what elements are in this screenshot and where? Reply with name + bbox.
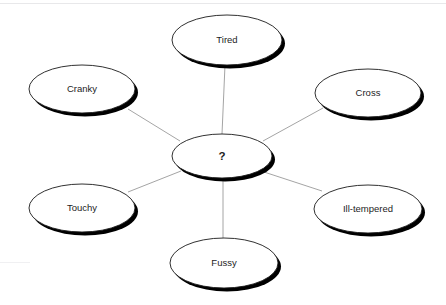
ill-tempered-label: Ill-tempered — [343, 203, 393, 214]
connector-center-cross — [263, 108, 323, 141]
node-touchy[interactable]: Touchy — [29, 184, 138, 236]
cross-label: Cross — [356, 87, 381, 98]
fussy-label: Fussy — [211, 257, 237, 268]
node-center-unknown[interactable]: ? — [172, 134, 275, 182]
word-web-diagram: Tired Cranky Cross Touchy Ill-tempered F… — [0, 0, 446, 305]
connector-center-cranky — [128, 109, 180, 141]
node-cross[interactable]: Cross — [315, 69, 424, 121]
diagram-canvas: Tired Cranky Cross Touchy Ill-tempered F… — [0, 0, 446, 305]
node-tired[interactable]: Tired — [172, 15, 285, 69]
touchy-label: Touchy — [67, 202, 97, 213]
node-fussy[interactable]: Fussy — [170, 238, 281, 292]
connector-center-tired — [222, 65, 225, 134]
connector-center-touchy — [128, 171, 181, 192]
tired-label: Tired — [216, 34, 237, 45]
connector-center-ill-tempered — [264, 172, 322, 191]
node-ill-tempered[interactable]: Ill-tempered — [314, 185, 425, 237]
center-label: ? — [218, 150, 225, 162]
cranky-label: Cranky — [67, 83, 97, 94]
node-cranky[interactable]: Cranky — [29, 65, 138, 117]
